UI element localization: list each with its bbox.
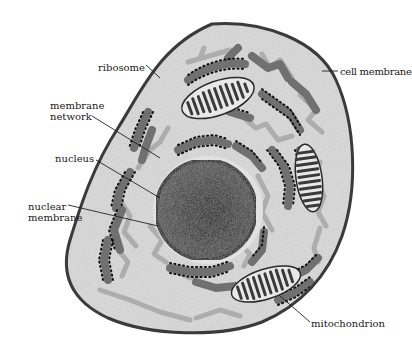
nucleus — [153, 156, 263, 264]
nuclear-membrane — [156, 160, 256, 260]
label-membrane-network: membrane network — [50, 100, 104, 122]
label-membrane-network-line2: network — [50, 111, 104, 122]
label-mitochondrion: mitochondrion — [311, 318, 385, 329]
label-cell-membrane: cell membrane — [340, 66, 412, 77]
label-nuclear-membrane: nuclear membrane — [28, 201, 82, 223]
label-ribosome: ribosome — [98, 62, 145, 73]
label-nuclear-membrane-line1: nuclear — [28, 201, 82, 212]
label-nuclear-membrane-line2: membrane — [28, 212, 82, 223]
label-membrane-network-line1: membrane — [50, 100, 104, 111]
label-nucleus: nucleus — [55, 153, 94, 164]
